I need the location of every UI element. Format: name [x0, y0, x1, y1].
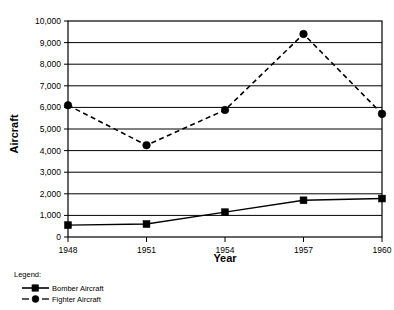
legend-entries: Bomber AircraftFighter Aircraft: [22, 284, 105, 304]
y-tick-label: 2,000: [40, 189, 62, 199]
x-axis-title: Year: [213, 252, 237, 264]
y-tick-label: 6,000: [40, 102, 62, 112]
y-tick-label: 1,000: [40, 210, 62, 220]
data-point-marker: [221, 106, 229, 114]
y-tick-label: 5,000: [40, 124, 62, 134]
chart-legend: Legend: Bomber AircraftFighter Aircraft: [14, 270, 105, 304]
y-axis-title: Aircraft: [8, 114, 20, 153]
y-tick-label: 10,000: [35, 16, 61, 26]
y-tick-label: 3,000: [40, 167, 62, 177]
data-point-marker: [222, 209, 229, 216]
y-tick-label: 9,000: [40, 38, 62, 48]
data-point-marker: [300, 30, 308, 38]
x-axis-ticks: [68, 237, 382, 242]
legend-label: Bomber Aircraft: [52, 284, 105, 293]
x-tick-label: 1957: [294, 245, 313, 255]
y-tick-label: 7,000: [40, 81, 62, 91]
chart-figure: 01,0002,0003,0004,0005,0006,0007,0008,00…: [0, 0, 394, 310]
x-tick-label: 1960: [373, 245, 392, 255]
y-tick-label: 4,000: [40, 146, 62, 156]
y-tick-label: 0: [56, 232, 61, 242]
y-tick-label: 8,000: [40, 59, 62, 69]
data-point-marker: [143, 141, 151, 149]
data-point-marker: [65, 222, 72, 229]
data-point-marker: [300, 197, 307, 204]
legend-label: Fighter Aircraft: [52, 295, 102, 304]
data-point-marker: [143, 221, 150, 228]
legend-entry: Bomber Aircraft: [22, 284, 105, 293]
legend-marker: [32, 285, 38, 291]
x-tick-label: 1951: [137, 245, 156, 255]
data-point-marker: [379, 195, 386, 202]
legend-entry: Fighter Aircraft: [22, 295, 102, 304]
y-axis-tick-labels: 01,0002,0003,0004,0005,0006,0007,0008,00…: [35, 16, 61, 242]
legend-heading: Legend:: [14, 270, 41, 279]
aircraft-line-chart: 01,0002,0003,0004,0005,0006,0007,0008,00…: [0, 0, 394, 310]
x-tick-label: 1948: [59, 245, 78, 255]
data-point-marker: [378, 110, 386, 118]
legend-marker: [32, 296, 39, 303]
data-point-marker: [64, 101, 72, 109]
